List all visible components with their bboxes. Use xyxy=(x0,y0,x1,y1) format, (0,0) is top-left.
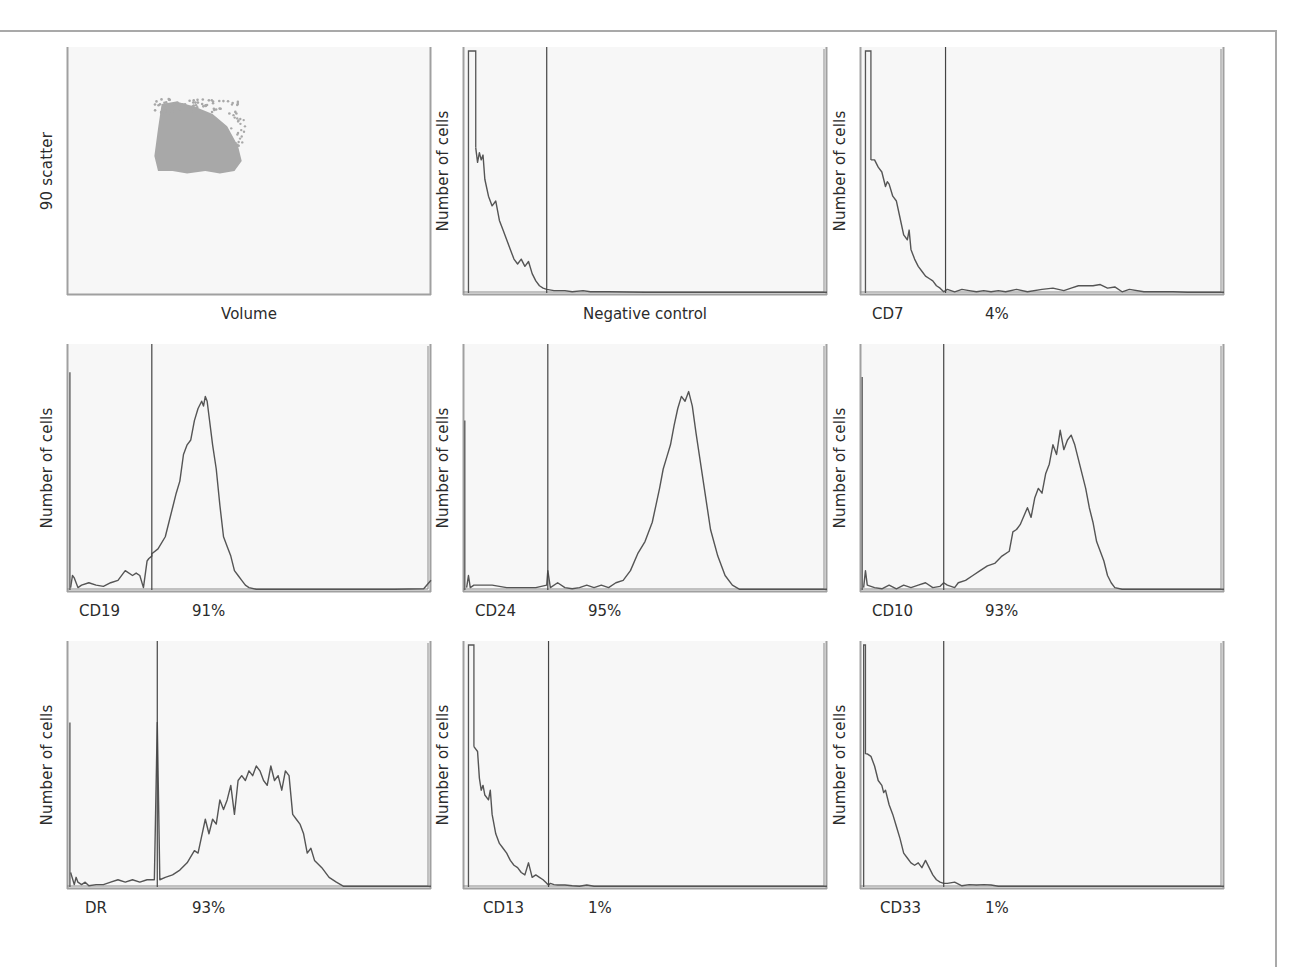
x-axis-label: Volume xyxy=(67,305,431,323)
cell-cluster xyxy=(154,102,241,174)
y-axis-label: Number of cells xyxy=(830,641,850,889)
y-axis-label-text: Number of cells xyxy=(831,111,849,232)
y-axis-label: Number of cells xyxy=(433,344,453,592)
histogram-svg xyxy=(67,344,431,592)
low-end-spike xyxy=(865,51,870,293)
x-axis-label: Negative control xyxy=(463,305,827,323)
y-axis-label: 90 scatter xyxy=(37,47,57,295)
figure-frame-right xyxy=(1275,30,1277,967)
scatter-plot-area xyxy=(67,47,431,295)
marker-label: CD19 xyxy=(79,602,120,620)
marker-label: CD10 xyxy=(872,602,913,620)
panel-cd33: Number of cells CD33 1% xyxy=(860,641,1224,889)
y-axis-label: Number of cells xyxy=(433,47,453,295)
axes-frame xyxy=(67,47,431,295)
histogram-curve xyxy=(865,754,1224,886)
histogram-plot-area xyxy=(67,344,431,592)
panel-dr: Number of cells DR 93% xyxy=(67,641,431,889)
histogram-plot-area xyxy=(67,641,431,889)
percent-label: 4% xyxy=(985,305,1009,323)
marker-label: CD13 xyxy=(483,899,524,917)
y-axis-label-text: Number of cells xyxy=(831,705,849,826)
panel-cd24: Number of cells CD24 95% xyxy=(463,344,827,592)
axes-frame xyxy=(860,641,1224,889)
y-axis-label: Number of cells xyxy=(37,641,57,889)
y-axis-label-text: Number of cells xyxy=(434,705,452,826)
panel-cd19: Number of cells CD19 91% xyxy=(67,344,431,592)
y-axis-label-text: Number of cells xyxy=(434,408,452,529)
histogram-plot-area xyxy=(463,47,827,295)
histogram-curve xyxy=(474,747,827,887)
histogram-curve xyxy=(871,160,1224,292)
axes-frame xyxy=(463,641,827,889)
histogram-plot-area xyxy=(860,344,1224,592)
histogram-svg xyxy=(860,641,1224,889)
y-axis-label-text: Number of cells xyxy=(434,111,452,232)
y-axis-label-text: Number of cells xyxy=(38,408,56,529)
axes-frame xyxy=(463,47,827,295)
histogram-svg xyxy=(463,47,827,295)
percent-label: 93% xyxy=(985,602,1018,620)
axes-frame xyxy=(860,344,1224,592)
marker-label: CD24 xyxy=(475,602,516,620)
y-axis-label-text: 90 scatter xyxy=(38,132,56,210)
panel-cd13: Number of cells CD13 1% xyxy=(463,641,827,889)
histogram-curve xyxy=(467,392,827,590)
histogram-curve xyxy=(476,148,827,292)
axes-frame xyxy=(67,641,431,889)
histogram-svg xyxy=(463,641,827,889)
y-axis-label-text: Number of cells xyxy=(831,408,849,529)
axes-frame xyxy=(463,344,827,592)
percent-label: 1% xyxy=(588,899,612,917)
marker-label: DR xyxy=(85,899,107,917)
low-end-spike xyxy=(864,645,866,887)
percent-label: 95% xyxy=(588,602,621,620)
y-axis-label: Number of cells xyxy=(433,641,453,889)
percent-label: 93% xyxy=(192,899,225,917)
marker-label: CD33 xyxy=(880,899,921,917)
histogram-curve xyxy=(71,722,431,886)
figure-frame-top xyxy=(0,30,1277,32)
panel-negative-control: Number of cells Negative control xyxy=(463,47,827,295)
histogram-svg xyxy=(860,47,1224,295)
y-axis-label: Number of cells xyxy=(37,344,57,592)
axes-frame xyxy=(67,344,431,592)
y-axis-label: Number of cells xyxy=(830,47,850,295)
histogram-curve xyxy=(71,396,431,589)
y-axis-label-text: Number of cells xyxy=(38,705,56,826)
marker-label: CD7 xyxy=(872,305,904,323)
histogram-svg xyxy=(860,344,1224,592)
low-end-spike xyxy=(468,51,475,293)
low-end-spike xyxy=(468,645,473,887)
panel-cd7: Number of cells CD7 4% xyxy=(860,47,1224,295)
histogram-svg xyxy=(463,344,827,592)
histogram-plot-area xyxy=(463,344,827,592)
histogram-svg xyxy=(67,641,431,889)
panel-scatter: 90 scatter Volume xyxy=(67,47,431,295)
y-axis-label: Number of cells xyxy=(830,344,850,592)
histogram-plot-area xyxy=(860,47,1224,295)
panel-cd10: Number of cells CD10 93% xyxy=(860,344,1224,592)
percent-label: 1% xyxy=(985,899,1009,917)
histogram-curve xyxy=(864,430,1224,589)
histogram-plot-area xyxy=(860,641,1224,889)
scatter-svg xyxy=(67,47,431,295)
histogram-plot-area xyxy=(463,641,827,889)
percent-label: 91% xyxy=(192,602,225,620)
